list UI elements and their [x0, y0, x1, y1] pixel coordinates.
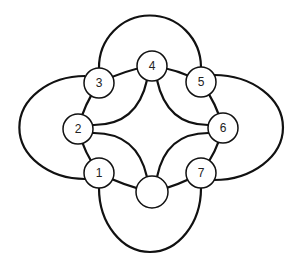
graph-diagram: 1 2 3 4 5 6 7: [0, 0, 301, 269]
node-2-label: 2: [75, 122, 82, 136]
node-4-label: 4: [149, 59, 156, 73]
node-8-unlabeled: [136, 176, 168, 208]
node-8-circle: [136, 176, 168, 208]
node-4: 4: [137, 51, 167, 81]
node-7-label: 7: [198, 166, 205, 180]
node-5: 5: [186, 67, 216, 97]
node-1-label: 1: [96, 166, 103, 180]
node-2: 2: [63, 114, 93, 144]
node-7: 7: [186, 158, 216, 188]
node-1: 1: [84, 158, 114, 188]
node-6: 6: [208, 113, 238, 143]
node-3: 3: [84, 68, 114, 98]
node-5-label: 5: [198, 75, 205, 89]
node-6-label: 6: [220, 121, 227, 135]
node-3-label: 3: [96, 76, 103, 90]
